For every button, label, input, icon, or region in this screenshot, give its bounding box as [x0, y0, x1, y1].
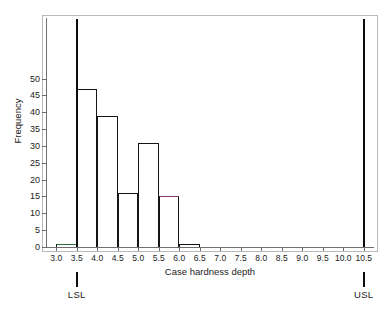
y-tick-label: 25 — [20, 159, 40, 168]
histogram-bar — [179, 244, 200, 247]
x-tick-label: 8.5 — [276, 254, 288, 263]
y-tick-label: 10 — [20, 209, 40, 218]
x-tick-mark — [323, 247, 324, 251]
y-tick-label: 0 — [20, 243, 40, 252]
x-tick-label: 9.0 — [296, 254, 308, 263]
x-tick-mark — [220, 247, 221, 251]
y-tick-label: 40 — [20, 108, 40, 117]
y-tick-label: 35 — [20, 125, 40, 134]
histogram-chart: 05101520253035404550 3.03.54.04.55.05.56… — [0, 0, 384, 310]
x-tick-label: 3.0 — [50, 254, 62, 263]
histogram-bar — [56, 244, 77, 247]
x-tick-label: 7.5 — [235, 254, 247, 263]
x-tick-mark — [364, 247, 365, 251]
x-tick-label: 6.0 — [173, 254, 185, 263]
y-axis-title: Frequency — [13, 81, 23, 161]
x-tick-label: 4.0 — [91, 254, 103, 263]
histogram-bar — [159, 196, 180, 247]
x-tick-mark — [77, 247, 78, 251]
x-tick-mark — [97, 247, 98, 251]
y-tick-mark — [42, 213, 46, 214]
y-tick-mark — [42, 180, 46, 181]
y-tick-label: 30 — [20, 142, 40, 151]
histogram-bar — [97, 116, 118, 247]
y-tick-label: 45 — [20, 91, 40, 100]
x-tick-label: 5.0 — [132, 254, 144, 263]
x-tick-mark — [138, 247, 139, 251]
x-tick-mark — [261, 247, 262, 251]
spec-limit-line-usl — [363, 19, 365, 247]
x-tick-mark — [282, 247, 283, 251]
y-tick-mark — [42, 79, 46, 80]
y-tick-mark — [42, 129, 46, 130]
histogram-bar — [138, 143, 159, 247]
x-tick-label: 6.5 — [194, 254, 206, 263]
x-tick-mark — [302, 247, 303, 251]
histogram-bar — [118, 193, 139, 247]
x-tick-label: 10.5 — [355, 254, 372, 263]
spec-limit-label-usl: USL — [354, 290, 373, 300]
y-tick-mark — [42, 112, 46, 113]
y-tick-mark — [42, 247, 46, 248]
y-tick-label: 5 — [20, 226, 40, 235]
x-tick-mark — [343, 247, 344, 251]
x-tick-label: 8.0 — [255, 254, 267, 263]
spec-limit-label-lsl: LSL — [68, 290, 86, 300]
x-tick-label: 3.5 — [71, 254, 83, 263]
x-tick-mark — [56, 247, 57, 251]
x-tick-mark — [159, 247, 160, 251]
x-axis-title: Case hardness depth — [42, 267, 378, 277]
x-tick-mark — [241, 247, 242, 251]
y-tick-mark — [42, 196, 46, 197]
x-tick-label: 4.5 — [112, 254, 124, 263]
x-axis-line — [46, 247, 374, 248]
y-tick-label: 50 — [20, 75, 40, 84]
y-tick-label: 15 — [20, 192, 40, 201]
x-tick-label: 7.0 — [214, 254, 226, 263]
x-tick-label: 9.5 — [317, 254, 329, 263]
x-tick-mark — [200, 247, 201, 251]
x-tick-label: 10.0 — [335, 254, 352, 263]
y-tick-mark — [42, 230, 46, 231]
y-tick-label: 20 — [20, 176, 40, 185]
x-tick-label: 5.5 — [153, 254, 165, 263]
x-tick-mark — [118, 247, 119, 251]
x-tick-mark — [179, 247, 180, 251]
y-tick-mark — [42, 95, 46, 96]
y-axis-line — [46, 18, 47, 247]
histogram-bar — [77, 89, 98, 247]
spec-limit-line-lsl — [76, 19, 78, 247]
y-tick-mark — [42, 163, 46, 164]
y-tick-mark — [42, 146, 46, 147]
